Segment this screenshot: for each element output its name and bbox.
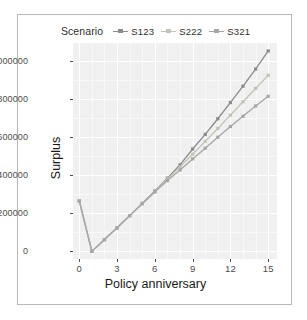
- x-axis-tick-mark: [117, 259, 118, 262]
- legend-item-s222[interactable]: S222: [161, 26, 202, 37]
- legend-item-s123[interactable]: S123: [113, 26, 154, 37]
- legend-key-s222-icon: [161, 26, 176, 36]
- x-axis-tick-label: 0: [59, 263, 99, 274]
- x-axis-tick-mark: [268, 259, 269, 262]
- y-axis-tick-label: 400000: [0, 170, 28, 180]
- x-axis-label: Policy anniversary: [18, 277, 293, 291]
- x-axis-tick-label: 3: [97, 263, 137, 274]
- legend-label-s123: S123: [131, 26, 154, 37]
- x-axis-tick-mark: [155, 259, 156, 262]
- series-s123: [78, 49, 270, 253]
- legend-title: Scenario: [61, 25, 103, 37]
- y-axis-tick-mark: [70, 99, 73, 100]
- series-s222: [78, 74, 270, 253]
- y-axis-tick-label: 1000000: [0, 56, 28, 66]
- x-axis-tick-mark: [79, 259, 80, 262]
- y-axis-tick-mark: [70, 251, 73, 252]
- y-axis-tick-label: 0: [0, 246, 28, 256]
- y-axis-tick-mark: [70, 61, 73, 62]
- x-axis-tick-label: 12: [210, 263, 250, 274]
- y-axis-tick-label: 600000: [0, 132, 28, 142]
- y-axis-tick-mark: [70, 213, 73, 214]
- chart-figure: Scenario S123 S222 S321 Surplus Policy a…: [17, 14, 292, 305]
- y-axis-tick-label: 200000: [0, 208, 28, 218]
- plot-series-layer: [73, 43, 277, 259]
- x-axis-tick-mark: [230, 259, 231, 262]
- y-axis-label: Surplus: [49, 98, 63, 218]
- legend-item-s321[interactable]: S321: [209, 26, 250, 37]
- x-axis-tick-label: 15: [248, 263, 288, 274]
- y-axis-tick-label: 800000: [0, 94, 28, 104]
- y-axis-tick-mark: [70, 175, 73, 176]
- x-axis-tick-label: 9: [173, 263, 213, 274]
- plot-panel: [73, 43, 277, 259]
- y-axis-tick-mark: [70, 137, 73, 138]
- legend-label-s321: S321: [227, 26, 250, 37]
- chart-legend: Scenario S123 S222 S321: [18, 21, 293, 41]
- x-axis-tick-label: 6: [135, 263, 175, 274]
- x-axis-tick-mark: [193, 259, 194, 262]
- legend-key-s123-icon: [113, 26, 128, 36]
- legend-key-s321-icon: [209, 26, 224, 36]
- legend-label-s222: S222: [179, 26, 202, 37]
